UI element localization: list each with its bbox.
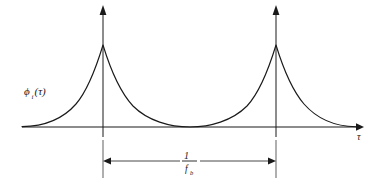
impulse-line-2 <box>273 5 280 137</box>
y-axis-label-subscript: i <box>32 93 34 101</box>
period-arrowhead-left-icon <box>103 158 111 165</box>
figure-canvas: ϕ i (τ) τ 1 f b <box>0 0 381 185</box>
period-arrowhead-right-icon <box>268 158 276 165</box>
impulse-1-up-arrowhead-icon <box>100 5 107 15</box>
y-axis-label-symbol: ϕ <box>24 85 30 97</box>
correlation-figure: ϕ i (τ) τ 1 f b <box>0 0 381 185</box>
x-axis-arrowhead-icon <box>356 123 364 131</box>
x-axis-label: τ <box>357 131 361 142</box>
impulse-line-1 <box>100 5 107 137</box>
autocorrelation-curve <box>22 45 356 127</box>
impulse-2-up-arrowhead-icon <box>273 5 280 15</box>
period-denominator-subscript: b <box>190 169 194 176</box>
period-numerator: 1 <box>184 150 189 161</box>
y-axis-label-argument: (τ) <box>35 85 47 98</box>
period-denominator-symbol: f <box>185 164 189 174</box>
